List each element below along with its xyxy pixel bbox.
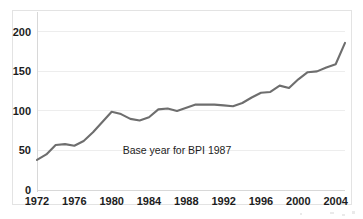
x-tick-label: 1984 bbox=[137, 195, 162, 207]
scan-artifact bbox=[342, 214, 345, 216]
scan-artifact bbox=[330, 212, 334, 214]
x-tick-label: 1980 bbox=[99, 195, 123, 207]
axis-lines-group bbox=[37, 12, 345, 192]
x-tick-label: 2000 bbox=[286, 195, 310, 207]
scan-artifact bbox=[300, 213, 302, 215]
x-tick-label: 1992 bbox=[211, 195, 235, 207]
x-tick-label: 1988 bbox=[174, 195, 198, 207]
x-tick-label: 1976 bbox=[62, 195, 86, 207]
line-chart: 050100150200 197219761980198419881992199… bbox=[0, 0, 363, 219]
data-series-line-1 bbox=[37, 43, 345, 160]
gridlines-group bbox=[37, 32, 345, 190]
chart-annotation-group: Base year for BPI 1987 bbox=[123, 144, 232, 156]
data-series-group bbox=[37, 43, 345, 160]
x-tick-label: 2004 bbox=[323, 195, 348, 207]
chart-canvas: 050100150200 197219761980198419881992199… bbox=[0, 0, 363, 219]
y-tick-label: 200 bbox=[13, 26, 31, 38]
y-tick-label: 150 bbox=[13, 65, 31, 77]
screenshot-root: 050100150200 197219761980198419881992199… bbox=[0, 0, 363, 219]
x-axis-tick-labels: 197219761980198419881992199620002004 bbox=[25, 195, 349, 207]
x-tick-label: 1972 bbox=[25, 195, 49, 207]
chart-annotation: Base year for BPI 1987 bbox=[123, 144, 232, 156]
y-tick-label: 50 bbox=[19, 144, 31, 156]
y-tick-label: 100 bbox=[13, 105, 31, 117]
scan-artifact bbox=[352, 211, 355, 214]
x-tick-label: 1996 bbox=[249, 195, 273, 207]
y-axis-tick-labels: 050100150200 bbox=[13, 26, 31, 196]
